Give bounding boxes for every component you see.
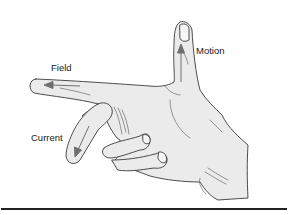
hand-diagram <box>0 0 292 215</box>
motion-label: Motion <box>196 46 225 56</box>
horizontal-rule <box>1 208 287 210</box>
current-label: Current <box>31 133 63 143</box>
field-label: Field <box>51 63 72 73</box>
thumb-nail <box>180 24 189 41</box>
